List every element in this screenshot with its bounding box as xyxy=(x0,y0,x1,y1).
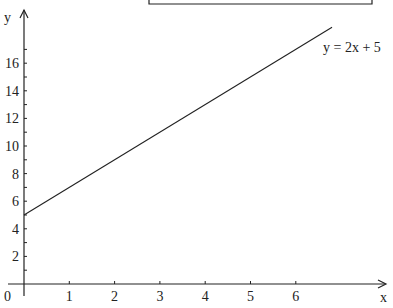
x-tick-label: 1 xyxy=(66,289,73,304)
line-chart: 123456 246810121416 y x 0 y = 2x + 5 xyxy=(0,0,393,308)
top-box-frame xyxy=(149,0,372,4)
y-tick-label: 8 xyxy=(12,167,19,182)
x-tick-label: 2 xyxy=(111,289,118,304)
y-tick-label: 6 xyxy=(12,194,19,209)
y-tick-label: 10 xyxy=(5,139,19,154)
origin-label: 0 xyxy=(4,289,11,304)
y-tick-label: 14 xyxy=(5,84,19,99)
y-tick-label: 12 xyxy=(5,111,19,126)
y-tick-label: 2 xyxy=(12,249,19,264)
y-tick-label: 4 xyxy=(12,222,19,237)
series-line xyxy=(24,27,332,215)
x-tick-label: 4 xyxy=(202,289,209,304)
y-tick-label: 16 xyxy=(5,56,19,71)
x-tick-label: 5 xyxy=(247,289,254,304)
x-axis-label: x xyxy=(380,290,387,305)
x-tick-label: 3 xyxy=(156,289,163,304)
x-tick-label: 6 xyxy=(292,289,299,304)
series-annotation: y = 2x + 5 xyxy=(323,40,381,55)
y-axis-label: y xyxy=(4,10,11,25)
